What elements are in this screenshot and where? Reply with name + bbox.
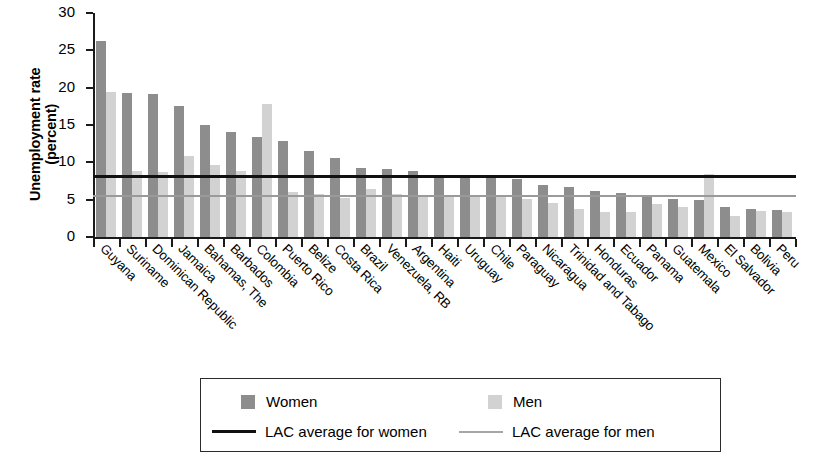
legend-item-women: Women	[241, 393, 317, 410]
bar-men-el-salvador	[730, 216, 739, 237]
y-tick-5: 5	[86, 199, 93, 201]
bar-women-uruguay	[460, 177, 469, 237]
y-tick-label-20: 20	[58, 78, 75, 95]
bar-women-guatemala	[668, 199, 677, 237]
bar-men-colombia	[262, 104, 271, 237]
bar-men-venezuela-rb	[392, 194, 401, 237]
legend-label-lac-average-women: LAC average for women	[265, 423, 427, 440]
y-tick-label-5: 5	[67, 190, 75, 207]
bar-women-haiti	[434, 175, 443, 237]
bar-men-ecuador	[626, 212, 635, 237]
y-tick-label-30: 30	[58, 3, 75, 20]
bar-men-chile	[496, 197, 505, 237]
y-tick-label-15: 15	[58, 115, 75, 132]
legend-label-women: Women	[266, 393, 317, 410]
bar-women-honduras	[590, 191, 599, 237]
lac-average-women-line	[93, 175, 796, 178]
legend-item-lac-average-women: LAC average for women	[212, 423, 427, 440]
legend-item-men: Men	[488, 393, 542, 410]
y-tick-30: 30	[86, 12, 93, 14]
y-tick-15: 15	[86, 124, 93, 126]
bar-men-belize	[314, 194, 323, 237]
y-tick-label-0: 0	[67, 227, 75, 244]
bar-men-paraguay	[522, 199, 531, 237]
bar-men-barbados	[236, 171, 245, 237]
bar-women-bahamas-the	[200, 125, 209, 237]
bar-women-brazil	[356, 168, 365, 237]
y-tick-label-10: 10	[58, 152, 75, 169]
bar-women-peru	[772, 210, 781, 237]
bar-women-chile	[486, 178, 495, 237]
bar-men-mexico	[704, 174, 713, 237]
y-tick-25: 25	[86, 49, 93, 51]
bar-men-dominican-republic	[158, 172, 167, 237]
lac-average-men-line	[93, 195, 796, 197]
bar-women-puerto-rico	[278, 141, 287, 237]
legend-line-women-icon	[212, 430, 256, 434]
bar-men-guatemala	[678, 207, 687, 237]
y-axis-line	[93, 13, 95, 238]
bar-men-nicaragua	[548, 203, 557, 237]
bar-women-argentina	[408, 171, 417, 237]
plot-area: 051015202530	[93, 13, 795, 237]
y-axis-title: Unemployment rate (percent)	[27, 19, 59, 249]
bar-women-ecuador	[616, 193, 625, 237]
legend-label-men: Men	[513, 393, 542, 410]
x-axis-labels: GuyanaSurinameDominican RepublicJamaicaB…	[93, 241, 816, 371]
bar-women-mexico	[694, 200, 703, 237]
chart-figure: Unemployment rate (percent) 051015202530…	[0, 0, 816, 459]
bar-men-argentina	[418, 195, 427, 237]
bar-women-bolivia	[746, 209, 755, 237]
legend-line-men-icon	[459, 431, 503, 433]
bar-women-barbados	[226, 132, 235, 237]
bar-men-puerto-rico	[288, 192, 297, 237]
bar-women-nicaragua	[538, 185, 547, 237]
y-tick-label-25: 25	[58, 40, 75, 57]
bar-women-paraguay	[512, 179, 521, 237]
bar-men-trinidad-and-tabago	[574, 209, 583, 237]
legend-swatch-men-icon	[488, 395, 502, 409]
bar-women-panama	[642, 195, 651, 237]
bar-women-el-salvador	[720, 207, 729, 237]
legend-item-lac-average-men: LAC average for men	[459, 423, 655, 440]
bar-women-colombia	[252, 137, 261, 237]
bar-men-bolivia	[756, 211, 765, 237]
bar-men-costa-rica	[340, 198, 349, 237]
bar-women-jamaica	[174, 106, 183, 237]
bar-men-peru	[782, 212, 791, 237]
y-tick-20: 20	[86, 87, 93, 89]
legend-label-lac-average-men: LAC average for men	[512, 423, 655, 440]
chart-legend: Women Men LAC average for women LAC aver…	[200, 378, 721, 452]
y-tick-0: 0	[86, 236, 93, 238]
bar-women-dominican-republic	[148, 94, 157, 237]
bar-women-costa-rica	[330, 158, 339, 237]
bar-women-venezuela-rb	[382, 169, 391, 237]
bar-men-guyana	[106, 92, 115, 237]
bar-men-suriname	[132, 171, 141, 237]
legend-swatch-women-icon	[241, 395, 255, 409]
bar-men-haiti	[444, 196, 453, 237]
bar-women-suriname	[122, 93, 131, 237]
bar-men-uruguay	[470, 197, 479, 237]
bar-women-guyana	[96, 41, 105, 237]
y-tick-10: 10	[86, 161, 93, 163]
bar-men-honduras	[600, 212, 609, 237]
bar-men-panama	[652, 204, 661, 237]
